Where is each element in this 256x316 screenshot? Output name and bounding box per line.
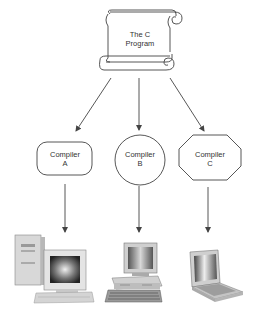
laptop-computer-icon	[190, 250, 243, 302]
arrows-to-compilers	[76, 78, 204, 131]
compiler-b-label-line2: B	[115, 159, 165, 168]
tower-desktop-computer-icon	[15, 235, 94, 303]
source-label-line2: Program	[115, 39, 165, 48]
compiler-a-label-line1: Compiler	[40, 150, 90, 159]
compiler-b-label-line1: Compiler	[115, 150, 165, 159]
source-label-line1: The C	[115, 30, 165, 39]
compiler-a-label: Compiler A	[40, 150, 90, 168]
arrows-to-computers	[65, 184, 208, 232]
compiler-c-label-line1: Compiler	[185, 150, 235, 159]
compiler-c-label: Compiler C	[185, 150, 235, 168]
compiler-a-label-line2: A	[40, 159, 90, 168]
compiler-b-label: Compiler B	[115, 150, 165, 168]
source-label: The C Program	[115, 30, 165, 48]
desktop-computer-icon	[105, 243, 162, 302]
compiler-c-label-line2: C	[185, 159, 235, 168]
